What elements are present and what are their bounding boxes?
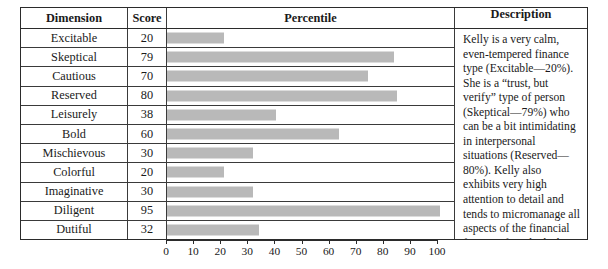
score-value: 20: [128, 29, 167, 47]
dimension-label: Cautious: [21, 67, 128, 85]
table-row: Mischievous30: [21, 144, 455, 163]
percentile-bar-cell: [167, 29, 455, 47]
axis-tick: [410, 240, 411, 244]
bar-track: [167, 183, 454, 201]
axis-tick: [302, 240, 303, 244]
table-row: Excitable20: [21, 29, 455, 48]
axis-tick: [166, 240, 167, 244]
bar-track: [167, 221, 454, 239]
percentile-bar-cell: [167, 221, 455, 239]
table-row: Cautious70: [21, 67, 455, 86]
bar-track: [167, 106, 454, 124]
axis-tick-label: 70: [350, 246, 361, 257]
dimension-label: Bold: [21, 125, 128, 143]
percentile-bar-cell: [167, 67, 455, 85]
table-row: Leisurely38: [21, 106, 455, 125]
axis-tick: [383, 240, 384, 244]
score-value: 38: [128, 106, 167, 124]
axis-tick: [220, 240, 221, 244]
axis-tick-label: 50: [296, 246, 307, 257]
score-value: 30: [128, 144, 167, 162]
axis-tick: [437, 240, 438, 244]
score-value: 95: [128, 202, 167, 220]
axis-tick: [193, 240, 194, 244]
percentile-bar-cell: [167, 183, 455, 201]
score-value: 70: [128, 67, 167, 85]
score-value: 30: [128, 183, 167, 201]
dimension-label: Leisurely: [21, 106, 128, 124]
table-row: Diligent95: [21, 202, 455, 221]
percentile-bar: [167, 33, 224, 44]
percentile-bar-cell: [167, 125, 455, 143]
dimension-label: Skeptical: [21, 48, 128, 66]
column-header-description-label: Description: [455, 8, 587, 20]
table-row: Dutiful32: [21, 221, 455, 239]
bar-track: [167, 48, 454, 66]
axis-tick-label: 40: [269, 246, 280, 257]
percentile-bar-cell: [167, 106, 455, 124]
percentile-bar-cell: [167, 144, 455, 162]
description-cell: Kelly is a very calm, even-tempered fina…: [455, 29, 587, 239]
table-row: Imaginative30: [21, 183, 455, 202]
axis-tick-label: 90: [404, 246, 415, 257]
dimension-label: Imaginative: [21, 183, 128, 201]
column-header-percentile: Percentile: [167, 8, 455, 28]
percentile-axis: 0102030405060708090100: [166, 240, 437, 266]
score-value: 32: [128, 221, 167, 239]
description-text: Kelly is a very calm, even-tempered fina…: [463, 33, 580, 239]
bar-track: [167, 29, 454, 47]
percentile-bar: [167, 52, 394, 63]
table-row: Colorful20: [21, 163, 455, 182]
table-row: Reserved80: [21, 87, 455, 106]
dimension-label: Reserved: [21, 87, 128, 105]
score-value: 79: [128, 48, 167, 66]
score-value: 20: [128, 163, 167, 181]
axis-tick-label: 20: [214, 246, 225, 257]
column-header-score: Score: [128, 8, 167, 28]
table-row: Skeptical79: [21, 48, 455, 67]
percentile-bar: [167, 205, 440, 216]
percentile-bar: [167, 167, 224, 178]
bar-track: [167, 125, 454, 143]
percentile-bar: [167, 186, 253, 197]
score-value: 60: [128, 125, 167, 143]
bar-track: [167, 87, 454, 105]
dimension-label: Excitable: [21, 29, 128, 47]
axis-tick-label: 10: [187, 246, 198, 257]
axis-tick: [247, 240, 248, 244]
column-header-dimension: Dimension: [21, 8, 128, 28]
dimension-label: Diligent: [21, 202, 128, 220]
percentile-bar-cell: [167, 87, 455, 105]
percentile-bar: [167, 224, 259, 235]
axis-tick-label: 30: [242, 246, 253, 257]
percentile-bar: [167, 129, 339, 140]
column-header-description: Description: [455, 8, 587, 28]
dimension-label: Colorful: [21, 163, 128, 181]
table-header-row: Dimension Score Percentile Description: [21, 8, 587, 29]
axis-tick: [356, 240, 357, 244]
percentile-bar: [167, 109, 276, 120]
dimension-label: Dutiful: [21, 221, 128, 239]
axis-tick-label: 100: [428, 246, 445, 257]
bar-track: [167, 163, 454, 181]
percentile-bar-cell: [167, 163, 455, 181]
axis-tick: [329, 240, 330, 244]
personality-profile-table: Dimension Score Percentile Description E…: [20, 7, 588, 240]
axis-tick: [274, 240, 275, 244]
axis-tick-label: 60: [323, 246, 334, 257]
percentile-bar: [167, 90, 397, 101]
percentile-bar: [167, 71, 368, 82]
table-row: Bold60: [21, 125, 455, 144]
column-header-percentile-label: Percentile: [167, 12, 454, 24]
bar-track: [167, 144, 454, 162]
percentile-bar-cell: [167, 202, 455, 220]
bar-track: [167, 67, 454, 85]
dimension-label: Mischievous: [21, 144, 128, 162]
percentile-bar: [167, 148, 253, 159]
score-value: 80: [128, 87, 167, 105]
axis-tick-label: 80: [377, 246, 388, 257]
percentile-bar-cell: [167, 48, 455, 66]
axis-tick-label: 0: [163, 246, 169, 257]
bar-track: [167, 202, 454, 220]
